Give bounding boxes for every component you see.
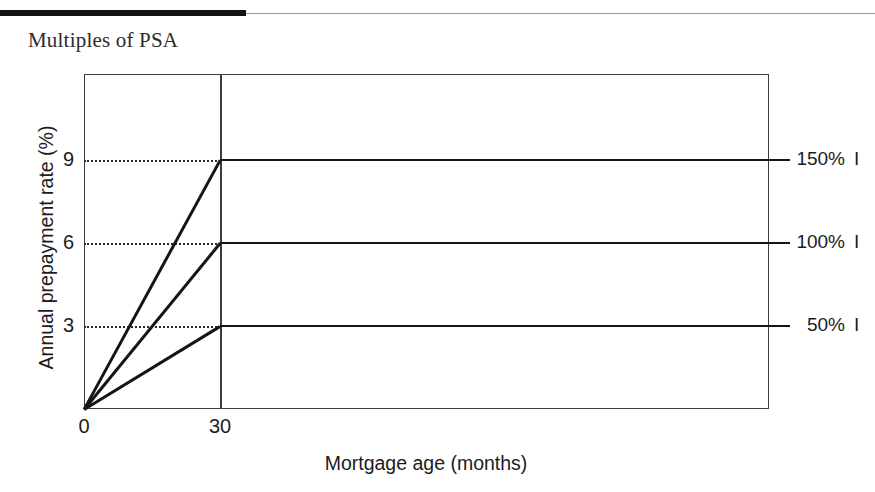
y-axis-title: Annual prepayment rate (%) [35, 98, 58, 398]
series-plateau-50pct [220, 325, 790, 328]
chart-figure: 963 030 150%I100%I50%I Annual prepayment… [0, 0, 875, 492]
x-axis-title: Mortgage age (months) [266, 452, 586, 475]
x-tick-label-30: 30 [200, 415, 240, 438]
gridline-9 [84, 160, 221, 162]
series-plateau-150pct [220, 159, 790, 162]
legend-label-150pct: 150% [783, 148, 845, 170]
series-plateau-100pct [220, 242, 790, 245]
legend-mark-100pct: I [854, 231, 859, 253]
gridline-6 [84, 243, 221, 245]
x-tick-label-0: 0 [64, 415, 104, 438]
legend-label-100pct: 100% [783, 231, 845, 253]
page-canvas: Multiples of PSA 963 030 150%I100%I50%I … [0, 0, 875, 492]
legend-mark-50pct: I [854, 314, 859, 336]
legend-label-50pct: 50% [783, 314, 845, 336]
legend-mark-150pct: I [854, 148, 859, 170]
